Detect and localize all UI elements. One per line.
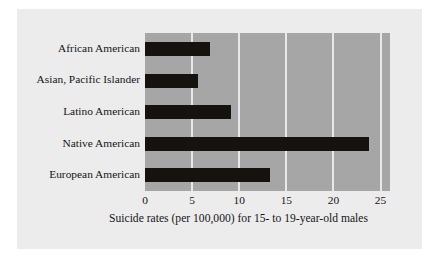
bar-row — [145, 33, 390, 65]
figure-panel: African AmericanAsian, Pacific IslanderL… — [17, 9, 422, 249]
plot-area — [145, 33, 390, 191]
bar-native-american — [145, 137, 369, 151]
bar-asian-pacific-islander — [145, 74, 198, 88]
x-tick-label-0: 0 — [142, 195, 148, 206]
bar-latino-american — [145, 105, 231, 119]
x-tick-label-25: 25 — [375, 195, 386, 206]
bar-row — [145, 128, 390, 160]
category-label: Native American — [0, 138, 140, 149]
category-label: Latino American — [0, 106, 140, 117]
x-tick-label-10: 10 — [234, 195, 245, 206]
x-tick-label-5: 5 — [189, 195, 195, 206]
bar-african-american — [145, 42, 210, 56]
x-tick-label-20: 20 — [328, 195, 339, 206]
category-label: African American — [0, 43, 140, 54]
bar-row — [145, 65, 390, 97]
bar-row — [145, 159, 390, 191]
x-axis-title: Suicide rates (per 100,000) for 15- to 1… — [17, 212, 422, 225]
x-tick-label-15: 15 — [281, 195, 292, 206]
category-label: Asian, Pacific Islander — [0, 74, 140, 85]
bar-row — [145, 96, 390, 128]
category-label: European American — [0, 169, 140, 180]
bar-european-american — [145, 168, 270, 182]
